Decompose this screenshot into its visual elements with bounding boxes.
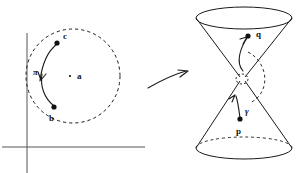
label-curve-gamma: γ	[245, 107, 249, 116]
hidden-contour-arc	[248, 52, 265, 103]
point-q-dot	[245, 33, 250, 38]
point-p-dot	[237, 116, 242, 121]
lower-cone	[196, 81, 292, 159]
path-pi-upper-segment	[40, 44, 57, 81]
label-point-q: q	[256, 30, 261, 39]
curve-gamma-lower-segment	[236, 96, 240, 118]
point-a-dot	[69, 75, 71, 77]
label-point-p: p	[236, 127, 241, 136]
diagram-svg	[0, 0, 303, 173]
lower-cone-left-edge	[196, 81, 240, 148]
label-curve-pi: π	[33, 68, 38, 77]
point-b-dot	[51, 104, 56, 109]
path-pi-lower-segment	[42, 74, 55, 106]
lower-rim-front-arc	[196, 148, 292, 159]
label-point-c: c	[63, 32, 67, 41]
point-c-dot	[54, 40, 59, 45]
upper-cone-right-edge	[245, 18, 292, 77]
maps-to-arrow	[148, 70, 188, 88]
left-axes	[2, 33, 145, 173]
lower-cone-right-edge	[245, 81, 292, 148]
upper-rim-back-arc	[196, 7, 292, 18]
figure-canvas: c b a π q p γ	[0, 0, 303, 173]
disk-boundary-circle	[26, 29, 120, 123]
label-point-a: a	[77, 72, 82, 81]
maps-to-arrow-shaft	[148, 71, 186, 88]
label-point-b: b	[49, 114, 54, 123]
upper-rim-front-arc	[196, 18, 292, 29]
lower-rim-back-arc	[196, 137, 292, 148]
